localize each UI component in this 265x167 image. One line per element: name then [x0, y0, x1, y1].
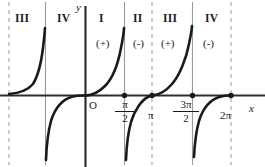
sign-label-quadrant-ii: (-) [133, 38, 144, 49]
sign-label-quadrant-iii: (+) [161, 38, 175, 49]
dot-two-pi [228, 93, 233, 98]
tangent-graph-figure: III IV I II III IV (+) (-) (+) (-) y x O… [0, 0, 265, 167]
tick-label-two-pi: 2π [220, 110, 231, 121]
half-pi-numerator: π [115, 99, 135, 110]
dot-pi [149, 93, 154, 98]
graph-canvas [0, 0, 265, 167]
tick-label-pi: π [148, 110, 154, 121]
quadrant-divider-lines [46, 2, 193, 165]
tangent-branch-zero-left [46, 96, 86, 161]
three-half-pi-numerator: 3π [173, 99, 199, 110]
sign-label-quadrant-iv: (-) [203, 38, 214, 49]
tick-label-half-pi: π 2 [115, 99, 135, 124]
half-pi-denominator: 2 [115, 113, 135, 124]
asymptote-lines [9, 2, 231, 165]
y-axis-label: y [76, 2, 81, 13]
quadrant-label-5: III [163, 13, 177, 25]
tick-label-three-half-pi: 3π 2 [173, 99, 199, 124]
tangent-branch-two [194, 96, 231, 158]
origin-label: O [89, 100, 97, 111]
quadrant-label-1: III [15, 13, 29, 25]
quadrant-label-3: I [99, 13, 104, 25]
sign-label-quadrant-i: (+) [96, 38, 110, 49]
tangent-branch-minus-one [9, 28, 45, 94]
quadrant-label-4: II [133, 13, 143, 25]
quadrant-label-2: IV [57, 13, 70, 25]
tangent-curves [9, 26, 231, 160]
three-half-pi-denominator: 2 [173, 113, 199, 124]
quadrant-label-6: IV [205, 13, 218, 25]
x-axis-label: x [249, 103, 254, 114]
